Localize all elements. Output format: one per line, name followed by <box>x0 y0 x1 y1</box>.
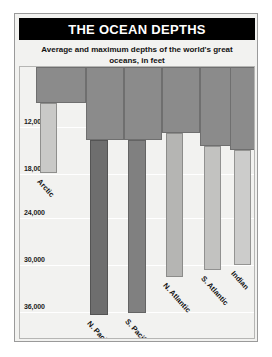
bar-average-depth <box>162 67 200 133</box>
category-label: N. Atlantic <box>161 281 192 314</box>
category-label: S. Atlantic <box>199 274 230 307</box>
bar-maximum-depth <box>90 140 108 315</box>
chart-card: THE OCEAN DEPTHS Average and maximum dep… <box>14 13 258 342</box>
category-label: S. Pacific <box>123 317 152 339</box>
bar-average-depth <box>230 67 255 150</box>
y-axis-tick-label: 24,000 <box>24 209 45 216</box>
bar-maximum-depth <box>204 146 221 270</box>
category-label: Indian <box>229 269 250 291</box>
bar-average-depth <box>36 67 86 103</box>
bar-maximum-depth <box>128 140 146 313</box>
chart-title-bar: THE OCEAN DEPTHS <box>19 18 255 40</box>
bar-maximum-depth <box>234 150 251 265</box>
plot-area: 12,00018,00024,00030,00036,000ArcticN. P… <box>19 66 255 339</box>
page-title: THE OCEAN DEPTHS <box>68 22 206 37</box>
y-axis-tick-label: 36,000 <box>24 303 45 310</box>
bar-average-depth <box>86 67 124 140</box>
category-label: N. Pacific <box>85 319 114 339</box>
category-label: Arctic <box>35 177 56 199</box>
bar-maximum-depth <box>166 133 183 277</box>
bar-average-depth <box>124 67 162 140</box>
bar-maximum-depth <box>40 103 57 173</box>
chart-subtitle: Average and maximum depths of the world'… <box>29 44 245 66</box>
y-axis-tick-label: 30,000 <box>24 256 45 263</box>
